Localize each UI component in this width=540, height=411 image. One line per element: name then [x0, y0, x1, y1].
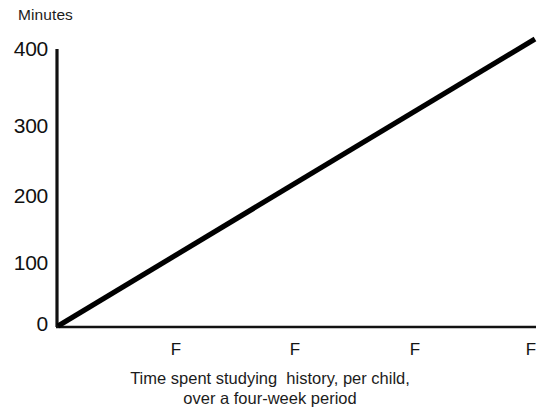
x-tick-label-2: F: [290, 341, 300, 358]
x-tick-label-3: F: [410, 341, 420, 358]
data-line-series-1: [58, 39, 535, 326]
x-tick-label-1: F: [171, 341, 181, 358]
x-tick-label-4: F: [526, 341, 536, 358]
line-chart: Minutes 400 300 200 100 0 F F F F Time s…: [0, 0, 540, 411]
plot-area: [0, 0, 540, 411]
chart-caption-line-2: over a four-week period: [0, 388, 540, 408]
chart-caption-line-1: Time spent studying history, per child,: [0, 368, 540, 388]
